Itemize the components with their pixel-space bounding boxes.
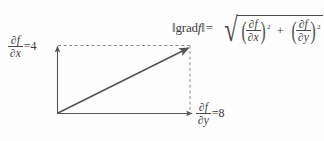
partial-x-squared-term: ( ∂f ∂x )2 xyxy=(240,18,271,44)
norm-grad-text: ‖grad xyxy=(172,20,198,35)
paren-right: ) xyxy=(260,22,265,40)
variable-x: x xyxy=(254,31,259,43)
gradient-diagram-figure: ∂f ∂x =4 ∂f ∂y =8 ‖gradf‖= √ ( ∂f ∂x )2 xyxy=(0,0,324,141)
partial-y-squared-term: ( ∂f ∂y )2 xyxy=(290,18,321,44)
partial-x-fraction-inner: ∂f ∂x xyxy=(246,18,261,44)
variable-y: y xyxy=(204,114,209,126)
variable-y: y xyxy=(304,31,309,43)
radical-sign: √ xyxy=(224,19,237,40)
function-f: f xyxy=(254,18,257,30)
gradient-magnitude-formula: ‖gradf‖= √ ( ∂f ∂x )2 + ( ∂f xyxy=(172,12,323,44)
equals-sign: = xyxy=(206,20,213,36)
partial-x-numerator: ∂f xyxy=(246,18,261,31)
radicand: ( ∂f ∂x )2 + ( ∂f ∂y )2 xyxy=(237,15,323,44)
gradient-vector-arrow xyxy=(58,48,189,113)
plus-sign: + xyxy=(276,23,283,39)
paren-left: ( xyxy=(291,22,296,40)
partial-y-numerator: ∂f xyxy=(296,18,311,31)
square-root: √ ( ∂f ∂x )2 + ( ∂f ∂y xyxy=(219,12,323,44)
function-f: f xyxy=(17,34,20,46)
partial-x-fraction: ∂f ∂x xyxy=(8,34,23,60)
partial-y-fraction: ∂f ∂y xyxy=(296,18,311,44)
partial-x-label: ∂f ∂x =4 xyxy=(8,34,37,60)
norm-bars-close: ‖ xyxy=(201,20,204,35)
partial-y-denominator: ∂y xyxy=(196,114,211,126)
partial-x-denominator: ∂x xyxy=(8,47,23,59)
norm-grad-f: ‖gradf‖ xyxy=(172,20,205,36)
variable-x: x xyxy=(16,47,21,59)
partial-y-label: ∂f ∂y =8 xyxy=(196,101,225,127)
partial-x-value: =4 xyxy=(24,39,37,54)
function-f: f xyxy=(205,101,208,113)
partial-y-value: =8 xyxy=(212,106,225,121)
exponent-two: 2 xyxy=(317,23,321,31)
partial-x-denominator: ∂x xyxy=(246,31,261,43)
partial-y-fraction-inner: ∂f ∂y xyxy=(296,18,311,44)
partial-y-numerator: ∂f xyxy=(196,101,211,114)
partial-y-denominator: ∂y xyxy=(296,31,311,43)
function-f: f xyxy=(305,18,308,30)
partial-y-fraction: ∂f ∂y xyxy=(196,101,211,127)
partial-x-numerator: ∂f xyxy=(8,34,23,47)
exponent-two: 2 xyxy=(267,23,271,31)
paren-left: ( xyxy=(241,22,246,40)
paren-right: ) xyxy=(310,22,315,40)
partial-x-fraction: ∂f ∂x xyxy=(246,18,261,44)
